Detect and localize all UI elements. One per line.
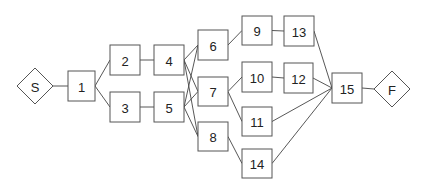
edge-14-15 bbox=[272, 88, 332, 164]
node-12: 12 bbox=[284, 63, 313, 93]
node-label: 12 bbox=[291, 72, 305, 87]
node-label: 2 bbox=[121, 54, 128, 69]
node-label: 13 bbox=[292, 25, 306, 40]
edge-10-12 bbox=[272, 77, 284, 78]
node-4: 4 bbox=[154, 45, 184, 75]
node-13: 13 bbox=[284, 16, 314, 46]
edge-9-13 bbox=[272, 31, 284, 32]
node-label: F bbox=[388, 83, 396, 98]
node-9: 9 bbox=[242, 16, 272, 45]
node-2: 2 bbox=[110, 45, 140, 75]
node-11: 11 bbox=[242, 107, 272, 136]
network-diagram: S123456789101114131215F bbox=[0, 0, 424, 189]
node-7: 7 bbox=[198, 77, 228, 106]
edge-6-9 bbox=[228, 31, 242, 46]
node-F: F bbox=[374, 71, 410, 107]
node-label: 15 bbox=[340, 82, 354, 97]
edge-15-F bbox=[362, 88, 374, 89]
node-S: S bbox=[17, 68, 53, 104]
node-3: 3 bbox=[110, 92, 140, 122]
edge-1-2 bbox=[95, 60, 110, 86]
node-15: 15 bbox=[332, 73, 362, 103]
edge-8-14 bbox=[228, 137, 242, 164]
node-14: 14 bbox=[242, 149, 272, 178]
node-label: 3 bbox=[121, 101, 128, 116]
node-10: 10 bbox=[242, 62, 272, 92]
node-label: 5 bbox=[165, 101, 172, 116]
node-label: S bbox=[31, 80, 40, 95]
node-label: 6 bbox=[209, 39, 216, 54]
edge-7-11 bbox=[228, 92, 242, 122]
node-8: 8 bbox=[198, 122, 228, 151]
node-label: 9 bbox=[253, 24, 260, 39]
node-label: 7 bbox=[209, 85, 216, 100]
nodes-layer: S123456789101114131215F bbox=[17, 16, 410, 178]
node-label: 11 bbox=[250, 115, 264, 130]
edge-1-3 bbox=[95, 86, 110, 107]
node-label: 4 bbox=[165, 54, 172, 69]
node-label: 10 bbox=[250, 71, 264, 86]
node-label: 8 bbox=[209, 130, 216, 145]
edge-5-8 bbox=[184, 107, 198, 137]
node-label: 1 bbox=[78, 80, 85, 95]
node-5: 5 bbox=[154, 92, 184, 122]
node-1: 1 bbox=[68, 71, 95, 101]
node-label: 14 bbox=[250, 157, 264, 172]
edge-7-10 bbox=[228, 77, 242, 92]
node-6: 6 bbox=[198, 30, 228, 60]
